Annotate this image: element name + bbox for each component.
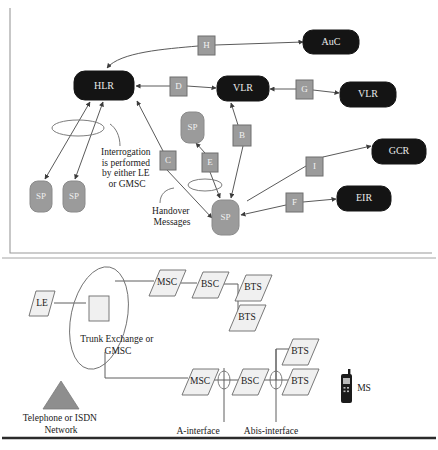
node-sp-upper-label: SP	[187, 122, 197, 132]
leader-handover	[160, 188, 174, 203]
connector-hlr-sp2	[75, 102, 103, 179]
annotation-notes: Interrogation is performed by either LE …	[101, 147, 192, 227]
node-sp-center[interactable]: SP	[212, 200, 239, 235]
leader-interrogation	[110, 124, 120, 146]
node-sp-center-label: SP	[220, 212, 230, 222]
interface-label-c-text: C	[165, 155, 171, 165]
interrogation-note: Interrogation is performed by either LE …	[101, 147, 153, 189]
figure-root: HLR AuC VLR VLR GCR EIR SP SP	[0, 0, 438, 450]
interface-label-g-text: G	[301, 84, 308, 94]
interface-label-f[interactable]: F	[286, 193, 303, 212]
interface-label-b[interactable]: B	[233, 125, 251, 146]
node-bts-bottom-2-label: BTS	[291, 346, 308, 356]
interface-captions: A-interface Abis-interface	[176, 426, 298, 436]
telephone-isdn-triangle	[43, 381, 79, 409]
trunk-exchange-box	[89, 296, 109, 321]
node-bts-top-1[interactable]: BTS	[235, 275, 272, 301]
connector-b-vlr	[231, 103, 238, 125]
telephone-isdn-network[interactable]: Telephone or ISDN Network	[23, 381, 100, 435]
node-bsc-top[interactable]: BSC	[192, 272, 229, 298]
interface-label-d[interactable]: D	[170, 77, 187, 96]
node-le[interactable]: LE	[29, 291, 55, 316]
interrogation-note-line-2: is performed	[102, 158, 151, 168]
interface-label-d-text: D	[175, 81, 182, 91]
phone-key-2-icon	[347, 387, 349, 389]
connector-e-sp-upper	[196, 143, 205, 153]
node-bsc-bottom[interactable]: BSC	[232, 369, 269, 395]
node-hlr-label: HLR	[94, 80, 114, 91]
trunk-exchange-label-line-2: GMSC	[105, 346, 132, 356]
mobile-station[interactable]: MS	[341, 369, 371, 403]
interface-label-c[interactable]: C	[160, 151, 176, 170]
node-bts-bottom-1[interactable]: BTS	[282, 369, 319, 395]
node-auc-label: AuC	[322, 36, 341, 47]
phone-screen-icon	[343, 378, 350, 384]
interface-label-e[interactable]: E	[202, 153, 218, 172]
node-vlr-remote[interactable]: VLR	[340, 82, 396, 107]
node-hlr[interactable]: HLR	[74, 71, 134, 100]
connector-hlr-sp1	[45, 102, 90, 179]
node-le-label: LE	[36, 298, 48, 308]
trunk-exchange[interactable]: Trunk Exchange or GMSC	[61, 261, 156, 374]
network-diagram: HLR AuC VLR VLR GCR EIR SP SP	[0, 0, 438, 450]
node-bts-top-1-label: BTS	[244, 282, 261, 292]
connector-i-gcr	[323, 146, 371, 157]
node-sp-left-2-label: SP	[69, 191, 79, 201]
connector-d-vlr	[187, 86, 216, 88]
connector-b-sp	[231, 146, 243, 198]
connector-h-auc	[215, 42, 303, 45]
handover-note: Handover Messages	[152, 206, 192, 227]
node-vlr[interactable]: VLR	[217, 76, 269, 101]
interface-label-h-text: H	[203, 40, 210, 50]
node-msc-bottom[interactable]: MSC	[182, 369, 219, 395]
interface-label-e-text: E	[207, 157, 213, 167]
node-sp-upper[interactable]: SP	[181, 112, 204, 143]
node-bsc-bottom-label: BSC	[241, 376, 259, 386]
node-sp-left-2[interactable]: SP	[63, 181, 85, 212]
node-vlr-label: VLR	[233, 82, 253, 93]
interface-label-h[interactable]: H	[198, 36, 215, 55]
node-bts-bottom-2[interactable]: BTS	[282, 339, 319, 365]
connector-e-sp-center	[210, 172, 220, 198]
phone-key-1-icon	[344, 387, 346, 389]
phone-key-4-icon	[347, 391, 349, 393]
telephone-isdn-label-line-1: Telephone or ISDN	[23, 413, 97, 423]
node-bsc-top-label: BSC	[201, 279, 219, 289]
interrogation-note-line-3: by either LE	[102, 168, 150, 178]
connector-c-hlr	[137, 101, 163, 151]
node-sp-left-1[interactable]: SP	[30, 181, 52, 212]
interface-label-g[interactable]: G	[296, 80, 313, 99]
node-bts-top-2[interactable]: BTS	[229, 305, 266, 331]
trunk-exchange-label-line-1: Trunk Exchange or	[80, 334, 154, 344]
interface-label-i[interactable]: I	[306, 157, 323, 176]
node-sp-left-1-label: SP	[36, 191, 46, 201]
node-gcr-label: GCR	[389, 145, 410, 156]
node-eir-label: EIR	[356, 192, 372, 203]
trunk-exchange-label: Trunk Exchange or GMSC	[80, 334, 155, 356]
connector-f-sp	[241, 205, 286, 215]
node-auc[interactable]: AuC	[303, 30, 359, 54]
telephone-isdn-label-line-2: Network	[44, 425, 77, 435]
interface-label-b-text: B	[239, 130, 245, 140]
interrogation-note-line-1: Interrogation	[101, 147, 151, 157]
interface-label-i-text: I	[313, 161, 316, 171]
interrogation-note-line-4: or GMSC	[108, 179, 145, 189]
node-bts-top-2-label: BTS	[238, 312, 255, 322]
connector-h-hlr	[107, 46, 198, 68]
mobile-station-label: MS	[357, 383, 371, 393]
connector-g-vlr2	[313, 90, 339, 93]
node-eir[interactable]: EIR	[337, 186, 391, 211]
node-msc-top-label: MSC	[157, 277, 177, 287]
abis-interface-label: Abis-interface	[244, 426, 298, 436]
top-panel-connectors	[45, 42, 371, 218]
interface-label-f-text: F	[292, 197, 297, 207]
node-vlr-remote-label: VLR	[358, 88, 378, 99]
node-bts-bottom-1-label: BTS	[291, 376, 308, 386]
phone-key-3-icon	[344, 391, 346, 393]
node-msc-top[interactable]: MSC	[149, 270, 186, 296]
a-interface-label: A-interface	[176, 426, 219, 436]
node-gcr[interactable]: GCR	[372, 139, 426, 164]
node-msc-bottom-label: MSC	[190, 376, 210, 386]
connector-f-eir	[303, 199, 336, 202]
handover-note-line-2: Messages	[154, 217, 191, 227]
